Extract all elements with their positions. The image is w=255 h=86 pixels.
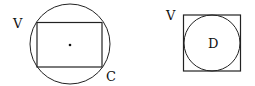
label-v-left: V: [12, 16, 23, 31]
left-figure: V C: [12, 4, 116, 84]
center-dot: [69, 44, 72, 47]
label-v-right: V: [165, 8, 176, 23]
right-figure: V D: [165, 8, 241, 71]
diagram: V C V D: [0, 0, 255, 86]
label-c: C: [106, 69, 116, 84]
label-d: D: [208, 36, 218, 51]
